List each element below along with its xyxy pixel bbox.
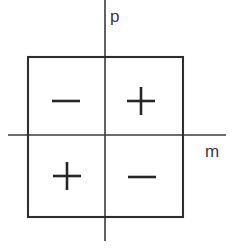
p-axis-label: p — [110, 7, 119, 26]
quadrant-bottom-left-sign — [53, 162, 81, 190]
diagram-canvas: p m — [0, 0, 239, 248]
quadrant-top-right-sign — [127, 87, 155, 115]
m-axis-label: m — [205, 142, 219, 161]
quadrant-sign-diagram: p m — [0, 0, 239, 248]
